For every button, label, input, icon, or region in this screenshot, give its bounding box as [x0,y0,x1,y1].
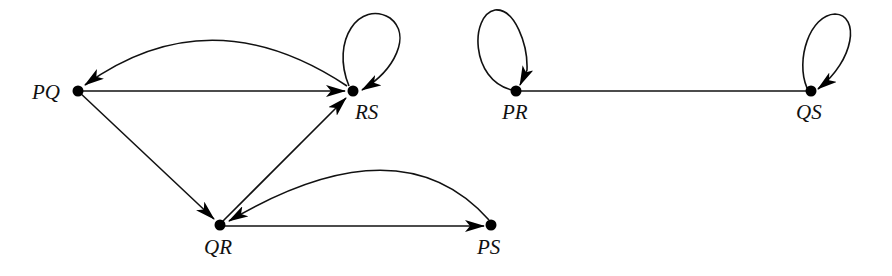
node-pr [511,86,522,97]
label-qs: QS [796,100,822,124]
label-ps: PS [476,235,501,259]
edge-qs-self-loop [803,14,851,89]
edge-pr-self-loop [478,10,527,90]
node-qr [215,220,226,231]
label-rs: RS [354,100,379,124]
directed-graph: PQ RS QR PS PR QS [0,0,892,276]
label-pr: PR [501,100,528,124]
edge-ps-to-qr [229,170,489,221]
node-ps [486,220,497,231]
edge-qr-to-rs [222,98,346,222]
label-pq: PQ [31,80,60,104]
edge-rs-to-pq [85,40,347,86]
node-pq [73,86,84,97]
edge-pq-to-qr [78,91,214,219]
node-rs [348,86,359,97]
label-qr: QR [204,235,232,259]
node-qs [806,86,817,97]
edge-rs-self-loop [343,14,400,90]
